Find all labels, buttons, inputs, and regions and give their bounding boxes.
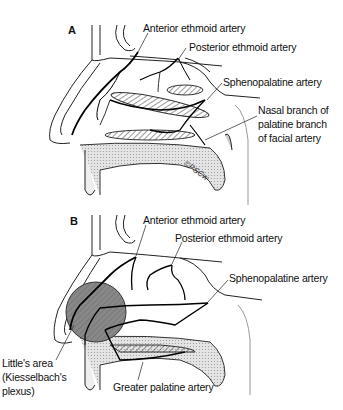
label-b-sphenopalatine-artery: Sphenopalatine artery [229,272,328,284]
label-b-littles-area-line1: Little's area [2,357,53,369]
label-b-littles-area-line2: (Kiesselbach's [2,371,67,383]
label-b-littles-area-line3: plexus) [2,385,34,397]
label-a-posterior-ethmoid-artery: Posterior ethmoid artery [189,41,296,53]
label-b-anterior-ethmoid-artery: Anterior ethmoid artery [143,214,245,226]
label-b-greater-palatine-artery: Greater palatine artery [113,381,213,393]
diagram-drawing [0,0,343,410]
panel-a-letter: A [68,24,76,36]
label-a-anterior-ethmoid-artery: Anterior ethmoid artery [143,22,245,34]
panel-b-letter: B [70,215,78,227]
nasal-blood-supply-diagram: A Anterior ethmoid artery Posterior ethm… [0,0,343,410]
label-b-posterior-ethmoid-artery: Posterior ethmoid artery [175,232,282,244]
label-a-sphenopalatine-artery: Sphenopalatine artery [223,76,322,88]
label-a-nasal-branch-line3: of facial artery [258,132,321,144]
label-a-nasal-branch-line1: Nasal branch of [258,104,329,116]
label-a-nasal-branch-line2: palatine branch [258,118,327,130]
